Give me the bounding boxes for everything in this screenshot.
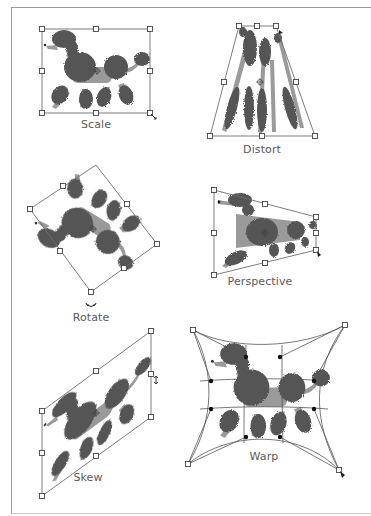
rotate-cursor-icon [86,303,96,307]
rotate-panel [27,165,160,307]
distort-cursor-icon [279,30,283,34]
perspective-panel [212,188,322,278]
scale-panel [40,27,157,120]
perspective-cursor-icon [317,251,321,257]
perspective-label: Perspective [228,275,293,288]
distort-label: Distort [243,143,281,156]
distort-panel [208,24,318,139]
skew-label: Skew [73,471,102,484]
scale-cursor-icon [151,114,156,119]
scale-label: Scale [81,118,111,131]
skew-cursor-icon [154,376,158,384]
warp-cursor-icon [340,471,345,478]
warp-label: Warp [250,450,279,463]
rotate-label: Rotate [73,311,110,324]
